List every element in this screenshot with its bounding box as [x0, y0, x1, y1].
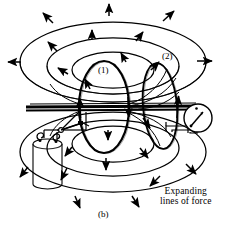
arrow-icon — [20, 167, 28, 177]
arrow-icon — [132, 196, 139, 207]
secondary-loop-label: (2) — [162, 52, 173, 61]
annotation-line-1: Expanding — [165, 186, 208, 196]
galvanometer-icon — [184, 104, 212, 133]
figure-container: (1) (2) Expanding lines of force (b) — [0, 0, 226, 230]
arrow-icon — [58, 68, 68, 74]
upper-field-lines — [20, 22, 206, 102]
arrow-icon — [48, 42, 57, 51]
figure-caption: (b) — [98, 210, 109, 219]
arrow-icon — [121, 53, 126, 62]
arrow-icon — [150, 176, 160, 186]
arrow-icon — [75, 196, 80, 208]
primary-loop-label: (1) — [98, 66, 109, 75]
arrow-icon — [186, 164, 196, 174]
arrow-icon — [163, 11, 174, 21]
arrow-icon — [65, 147, 72, 156]
annotation-line-2: lines of force — [160, 197, 212, 207]
upper-field-arrows — [8, 4, 212, 89]
expanding-lines-annotation: Expanding lines of force — [160, 187, 212, 207]
central-conductor — [26, 103, 200, 111]
arrow-icon — [43, 13, 53, 23]
